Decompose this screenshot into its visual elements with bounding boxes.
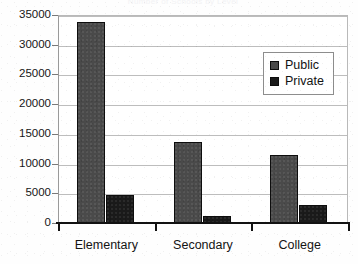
bar-secondary-public xyxy=(174,142,202,223)
y-axis-tick-label: 15000 xyxy=(0,128,51,140)
legend-label: Private xyxy=(285,75,324,88)
gridline xyxy=(59,16,347,17)
x-axis-line xyxy=(56,222,349,224)
legend-label: Public xyxy=(285,59,319,72)
y-axis-tick-label: 20000 xyxy=(0,98,51,110)
y-axis-tick-label: 35000 xyxy=(0,9,51,21)
bar-chart: Number of Schools by Level 0500010000150… xyxy=(0,0,358,264)
x-axis-category-label: College xyxy=(251,238,348,252)
bar-college-private xyxy=(299,205,327,223)
plot-area xyxy=(58,15,348,223)
y-axis-tick xyxy=(52,45,58,46)
x-axis-category-label: Secondary xyxy=(155,238,252,252)
legend: PublicPrivate xyxy=(263,52,334,95)
y-axis-tick xyxy=(52,193,58,194)
legend-item-private: Private xyxy=(270,73,324,89)
y-axis-tick xyxy=(52,104,58,105)
legend-swatch-icon xyxy=(270,77,279,86)
x-axis-tick xyxy=(348,222,350,231)
y-axis-tick-label: 10000 xyxy=(0,158,51,170)
legend-swatch-icon xyxy=(270,61,279,70)
bar-elementary-public xyxy=(77,22,105,223)
y-axis-tick xyxy=(52,134,58,135)
y-axis-tick-label: 5000 xyxy=(0,187,51,199)
legend-item-public: Public xyxy=(270,57,324,73)
y-axis-tick xyxy=(52,15,58,16)
x-axis-tick xyxy=(251,222,253,231)
y-axis-tick-label: 0 xyxy=(0,217,51,229)
bar-elementary-private xyxy=(106,195,134,223)
y-axis-tick-label: 25000 xyxy=(0,68,51,80)
y-axis-tick xyxy=(52,164,58,165)
x-axis-tick xyxy=(155,222,157,231)
x-axis-category-label: Elementary xyxy=(58,238,155,252)
bar-college-public xyxy=(270,155,298,223)
y-axis-tick-label: 30000 xyxy=(0,39,51,51)
x-axis-tick xyxy=(58,222,60,231)
cropped-title-remnant: Number of Schools by Level xyxy=(108,0,258,6)
y-axis-tick xyxy=(52,74,58,75)
